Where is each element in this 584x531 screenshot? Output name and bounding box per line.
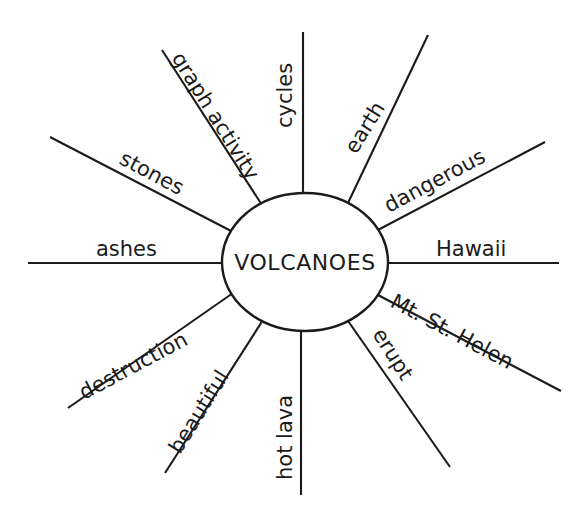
word-web-canvas: VOLCANOES cyclesearthdangerousHawaiiMt. … — [0, 0, 584, 531]
spoke-label-cycles: cycles — [273, 63, 297, 128]
spoke-label-ashes: ashes — [96, 237, 157, 261]
center-node-label: VOLCANOES — [234, 250, 376, 275]
spoke-label-hawaii: Hawaii — [436, 237, 506, 261]
word-web-diagram: VOLCANOES cyclesearthdangerousHawaiiMt. … — [0, 0, 584, 531]
spoke-label-hot-lava: hot lava — [273, 395, 297, 480]
